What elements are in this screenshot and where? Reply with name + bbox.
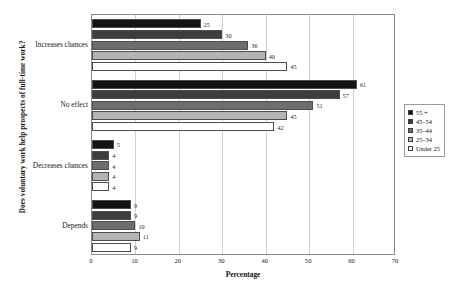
bar-group: 6157514542 [92,75,394,135]
x-tick-label: 30 [218,257,225,264]
bar[interactable] [92,51,266,60]
chart-figure: Does voluntary work help prospects of fu… [0,0,472,293]
x-tick-label: 50 [305,257,312,264]
bar-row: 61 [92,80,395,89]
bar[interactable] [92,172,109,181]
legend-swatch-icon [408,119,413,124]
bar[interactable] [92,221,135,230]
bar[interactable] [92,211,131,220]
legend-item[interactable]: 35–44 [408,126,440,135]
y-axis-tick-labels: Increases chancesNo effectDecreases chan… [14,14,88,255]
bar-value-label: 57 [343,91,349,98]
bar-value-label: 10 [138,222,144,229]
bar-value-label: 61 [360,81,366,88]
bar[interactable] [92,232,140,241]
bar-value-label: 45 [290,63,296,70]
bar-value-label: 4 [112,162,115,169]
legend-label: 25–34 [416,135,432,144]
bar-row: 30 [92,30,395,39]
x-tick-label: 0 [89,257,92,264]
x-axis-title: Percentage [91,270,395,279]
bar[interactable] [92,243,131,252]
bar[interactable] [92,151,109,160]
bar-value-label: 4 [112,152,115,159]
bar-value-label: 51 [316,102,322,109]
bar-row: 10 [92,221,395,230]
bar-row: 25 [92,19,395,28]
bar-row: 4 [92,182,395,191]
bar-row: 9 [92,211,395,220]
bar[interactable] [92,30,222,39]
bar-value-label: 5 [117,141,120,148]
category-label: Depends [16,221,88,230]
bar-row: 57 [92,90,395,99]
bar-row: 45 [92,111,395,120]
x-tick-label: 70 [392,257,399,264]
legend-item[interactable]: 55 + [408,108,440,117]
bar-row: 51 [92,101,395,110]
bar-value-label: 30 [225,31,231,38]
bar-group: 54444 [92,136,394,196]
bar-value-label: 36 [251,42,257,49]
bar-value-label: 4 [112,173,115,180]
bar[interactable] [92,140,114,149]
bar-group: 9910119 [92,196,394,255]
x-tick-label: 60 [348,257,355,264]
bar-row: 45 [92,62,395,71]
bar-row: 40 [92,51,395,60]
bar-row: 4 [92,161,395,170]
x-tick-label: 20 [175,257,182,264]
bar-row: 5 [92,140,395,149]
bar-row: 11 [92,232,395,241]
bar-value-label: 11 [143,233,149,240]
legend-item[interactable]: Under 25 [408,144,440,153]
bar-value-label: 4 [112,183,115,190]
bar-value-label: 42 [277,123,283,130]
bar-row: 9 [92,200,395,209]
bar-value-label: 25 [204,20,210,27]
bar[interactable] [92,200,131,209]
x-tick-label: 10 [131,257,138,264]
category-label: Decreases chances [16,161,88,170]
legend-swatch-icon [408,146,413,151]
bar[interactable] [92,161,109,170]
bar-row: 42 [92,122,395,131]
category-label: Increases chances [16,40,88,49]
bar[interactable] [92,80,357,89]
bar[interactable] [92,62,287,71]
chart-legend: 55 +45–5435–4425–34Under 25 [404,104,445,157]
x-tick-label: 40 [261,257,268,264]
legend-swatch-icon [408,128,413,133]
bar[interactable] [92,182,109,191]
bar[interactable] [92,122,274,131]
legend-item[interactable]: 45–54 [408,117,440,126]
plot-area: 25303640456157514542544449910119 [91,14,395,255]
bar[interactable] [92,111,287,120]
legend-item[interactable]: 25–34 [408,135,440,144]
x-axis-tick-labels: 010203040506070 [91,256,395,268]
bar[interactable] [92,101,313,110]
bar[interactable] [92,90,340,99]
bar-value-label: 45 [290,112,296,119]
bar[interactable] [92,41,248,50]
bar-value-label: 9 [134,212,137,219]
category-label: No effect [16,100,88,109]
bar-row: 4 [92,172,395,181]
legend-swatch-icon [408,137,413,142]
bar-row: 9 [92,243,395,252]
bar-group: 2530364045 [92,15,394,75]
bar-value-label: 40 [269,52,275,59]
bar[interactable] [92,19,201,28]
bar-value-label: 9 [134,244,137,251]
bar-row: 4 [92,151,395,160]
legend-label: 55 + [416,108,428,117]
bar-row: 36 [92,41,395,50]
bar-value-label: 9 [134,201,137,208]
legend-swatch-icon [408,110,413,115]
legend-label: Under 25 [416,144,440,153]
legend-label: 45–54 [416,117,432,126]
legend-label: 35–44 [416,126,432,135]
